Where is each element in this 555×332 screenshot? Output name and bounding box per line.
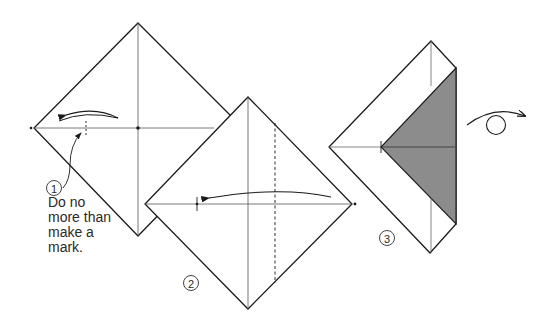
turn-over-arrow-icon — [467, 112, 525, 125]
step3-number: 3 — [379, 230, 395, 246]
step1-corner-dot — [30, 127, 33, 130]
step1-instruction: Do no more than make a mark. — [48, 195, 128, 255]
step2-corner-dot — [354, 203, 357, 206]
step2-number: 2 — [183, 275, 199, 291]
origami-diagram — [0, 0, 555, 332]
step3-diagram — [329, 41, 525, 253]
step1-center-dot — [136, 126, 140, 130]
turn-over-circle-icon — [487, 116, 506, 135]
